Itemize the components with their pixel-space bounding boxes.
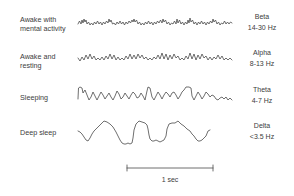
delta-wave-trace (78, 121, 210, 144)
alpha-wave-trace (78, 53, 232, 61)
scale-bar-label: 1 sec (150, 176, 190, 183)
scale-bar (127, 165, 213, 171)
eeg-waveforms (0, 0, 294, 196)
theta-wave-trace (78, 87, 232, 100)
beta-wave-trace (78, 18, 232, 25)
